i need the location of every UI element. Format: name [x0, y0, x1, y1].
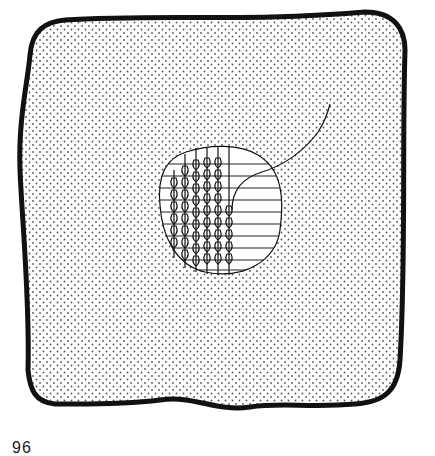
figure-number: 96	[12, 440, 32, 456]
